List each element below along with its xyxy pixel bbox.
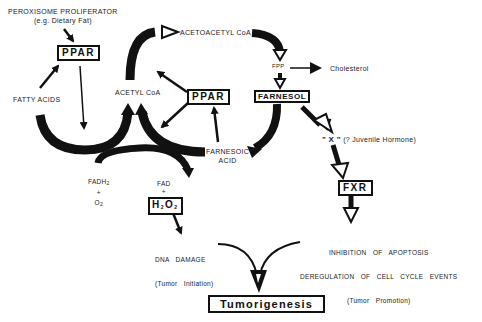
- plus-sign-2: +: [157, 188, 171, 196]
- fadh2-text: FADH2: [88, 177, 110, 188]
- fadh2-o2-label: FADH2 + O2: [88, 177, 110, 209]
- arrow-h2o2-to-dna: [173, 213, 181, 233]
- fpp-label: FPP: [272, 62, 285, 71]
- inhibition-apoptosis-text: INHIBITION OF APOPTOSIS: [300, 249, 458, 257]
- open-arrow-x-to-fxr: [332, 163, 348, 178]
- farnesoic-line2: ACID: [206, 156, 249, 165]
- peroxisome-proliferator-label: PEROXISOME PROLIFERATOR (e.g. Dietary Fa…: [8, 7, 118, 25]
- ppar-left-box: PPAR: [57, 45, 100, 61]
- peroxisome-proliferator-text: PEROXISOME PROLIFERATOR: [8, 7, 118, 16]
- x-text: " X ": [322, 135, 341, 144]
- farnesoic-line1: FARNESOIC: [206, 147, 249, 156]
- arrow-ppar-to-acetylcoa: [158, 72, 187, 92]
- tumor-initiation-text: (Tumor Initiation): [155, 280, 214, 288]
- acetyl-coa-label: ACETYL CoA: [115, 88, 161, 97]
- thick-arrow-acetylcoa-to-acetoacetylcoa: [130, 32, 155, 80]
- thick-arrow-farnesol-to-farnesoic: [255, 104, 277, 148]
- x-juvenile-hormone-label: " X " (? Juvenile Hormone): [322, 135, 416, 144]
- fad-text: FAD: [157, 180, 171, 188]
- peroxisome-example-text: (e.g. Dietary Fat): [8, 16, 118, 25]
- ppar-center-box: PPAR: [187, 89, 230, 105]
- fad-label: FAD +: [157, 180, 171, 196]
- acetoacetyl-coa-label: ACETOACETYL CoA: [180, 28, 251, 37]
- farnesoic-acid-label: FARNESOIC ACID: [206, 147, 249, 165]
- thick-arrow-fadh2-to-fad: [98, 148, 188, 170]
- dna-damage-label: DNA DAMAGE (Tumor Initiation): [155, 240, 214, 296]
- fatty-acids-label: FATTY ACIDS: [13, 95, 60, 104]
- arrow-proliferator-to-ppar: [64, 29, 73, 41]
- fxr-box: FXR: [338, 180, 373, 196]
- tumorigenesis-box: Tumorigenesis: [208, 295, 325, 313]
- plus-sign-1: +: [88, 188, 110, 198]
- arrow-fattyacids-to-ppar: [40, 66, 58, 88]
- o2-text: O2: [88, 198, 110, 209]
- arrow-ppar-down: [80, 66, 84, 128]
- open-arrow-fpp-to-farnesol: [275, 79, 285, 88]
- open-arrow-fxr-to-inhibition: [344, 208, 358, 222]
- juvenile-hormone-text: (? Juvenile Hormone): [343, 136, 416, 143]
- cholesterol-label: Cholesterol: [330, 64, 369, 73]
- h2o2-box: H2O2: [148, 197, 183, 215]
- arrow-ppar-to-cycle: [162, 103, 188, 127]
- deregulation-text: DEREGULATION OF CELL CYCLE EVENTS: [300, 273, 458, 281]
- dna-damage-text: DNA DAMAGE: [155, 256, 214, 264]
- arrow-farnesoic-to-ppar: [214, 108, 218, 142]
- farnesol-box: FARNESOL: [254, 90, 310, 103]
